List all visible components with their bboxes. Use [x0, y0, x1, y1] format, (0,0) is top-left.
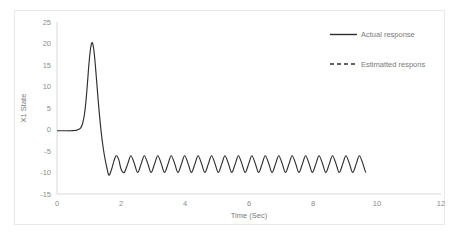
x-tick-labels: 0 2 4 6 8 10 12 [55, 199, 445, 208]
y-tick-label: 15 [43, 61, 51, 70]
legend-label-actual-response: Actual response [361, 30, 415, 39]
y-tick-label: -15 [40, 190, 51, 199]
line-chart: 25 20 15 10 5 0 -5 -10 -15 0 2 4 6 8 10 … [0, 0, 460, 239]
legend-label-estimated-response: Estimatted respons [361, 60, 425, 69]
x-tick-label: 2 [119, 199, 123, 208]
x-tick-label: 12 [437, 199, 445, 208]
x-axis-title: Time (Sec) [231, 211, 268, 220]
series-line-actual-response [57, 43, 366, 176]
x-tick-label: 4 [183, 199, 187, 208]
x-tick-label: 8 [311, 199, 315, 208]
y-tick-label: 0 [47, 125, 51, 134]
y-tick-label: 10 [43, 82, 51, 91]
x-tick-label: 6 [247, 199, 251, 208]
y-tick-label: 25 [43, 18, 51, 27]
legend: Actual response Estimatted respons [330, 30, 425, 69]
x-tick-label: 0 [55, 199, 59, 208]
y-tick-label: 5 [47, 104, 51, 113]
x-tick-label: 10 [373, 199, 381, 208]
y-tick-label: -10 [40, 168, 51, 177]
y-tick-label: 20 [43, 39, 51, 48]
y-axis-title: X1 State [19, 94, 28, 123]
y-tick-label: -5 [44, 147, 51, 156]
y-tick-labels: 25 20 15 10 5 0 -5 -10 -15 [40, 18, 51, 199]
